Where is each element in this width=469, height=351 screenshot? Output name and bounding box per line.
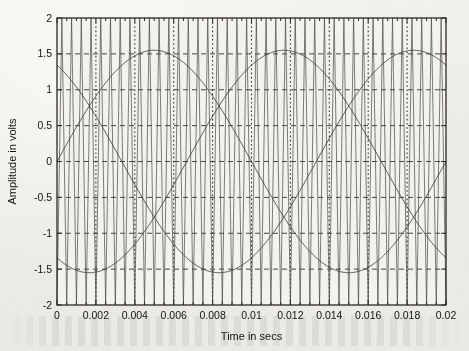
y-tick-label: -0.5 [34,191,52,203]
x-tick-label: 0.006 [161,309,187,321]
y-tick-label: 0.5 [37,119,52,131]
x-tick-label: 0 [54,309,60,321]
x-axis-title: Time in secs [221,330,283,342]
y-tick-label: 1 [46,83,52,95]
x-tick-label: 0.004 [122,309,148,321]
y-tick-label: 1.5 [37,47,52,59]
spwm-waveform-chart: 00.0020.0040.0060.0080.010.0120.0140.016… [0,0,469,351]
x-tick-label: 0.014 [316,309,342,321]
y-tick-label: -1.5 [34,263,52,275]
x-tick-label: 0.002 [83,309,109,321]
y-tick-label: -1 [43,227,52,239]
y-tick-label: -2 [43,299,52,311]
x-tick-label: 0.012 [277,309,303,321]
y-axis-title: Amplitude in volts [6,118,18,205]
x-tick-label: 0.02 [436,309,457,321]
y-tick-label: 2 [46,12,52,24]
x-tick-label: 0.008 [199,309,225,321]
x-tick-label: 0.01 [241,309,262,321]
y-tick-label: 0 [46,155,52,167]
x-tick-label: 0.018 [394,309,420,321]
x-tick-label: 0.016 [355,309,381,321]
